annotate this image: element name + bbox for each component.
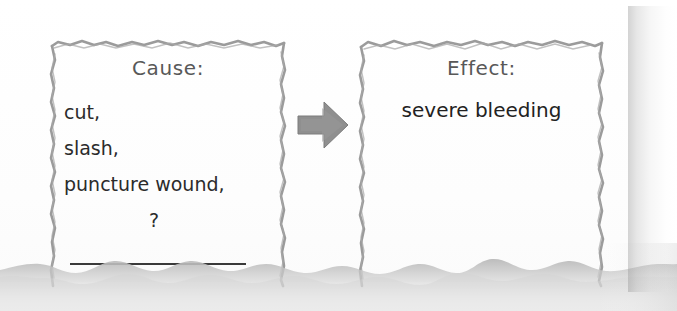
effect-box: Effect: severe bleeding	[357, 36, 606, 288]
scanned-worksheet-page: Cause: cut, slash, puncture wound, ?	[0, 0, 677, 311]
cause-list-item: cut,	[64, 94, 278, 130]
page-right-edge-shadow	[628, 6, 677, 292]
cause-list-item: slash,	[64, 130, 278, 166]
cause-list-item: puncture wound,	[64, 166, 278, 202]
cause-box-heading: Cause:	[48, 56, 288, 80]
cause-box: Cause: cut, slash, puncture wound, ?	[48, 36, 288, 288]
cause-item-list: cut, slash, puncture wound, ?	[64, 94, 278, 238]
effect-value-text: severe bleeding	[357, 98, 606, 122]
cause-list-item-question-mark: ?	[64, 202, 278, 238]
effect-box-heading: Effect:	[357, 56, 606, 80]
fill-in-blank-line[interactable]	[70, 263, 246, 265]
right-block-arrow-icon	[297, 99, 349, 151]
